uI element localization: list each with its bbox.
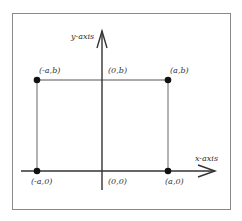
point-neg-a-b-dot — [34, 77, 41, 84]
point-label-zero-b: (0,b) — [108, 66, 127, 75]
point-neg-a-zero-dot — [34, 168, 41, 175]
point-label-a-zero: (a,0) — [165, 177, 184, 186]
point-label-a-b: (a,b) — [170, 66, 189, 75]
x-axis-label: x-axis — [195, 154, 218, 163]
point-label-neg-a-b: (-a,b) — [39, 66, 60, 75]
coordinate-diagram: y-axis x-axis (-a,b) (0,b) (a,b) (-a,0) … — [0, 0, 242, 221]
y-axis-label: y-axis — [70, 32, 94, 41]
x-axis — [21, 165, 215, 177]
y-axis — [97, 31, 107, 190]
point-a-b-dot — [165, 77, 172, 84]
point-label-neg-a-zero: (-a,0) — [31, 177, 52, 186]
point-a-zero-dot — [165, 168, 172, 175]
point-label-origin: (0,0) — [108, 177, 127, 186]
